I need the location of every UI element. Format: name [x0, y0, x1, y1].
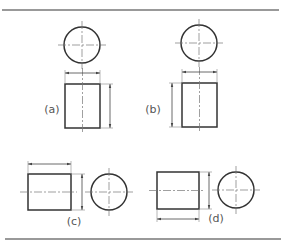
orthographic-views-figure: (a)(b)(c)(d) — [0, 0, 291, 247]
view-label-b: (b) — [145, 103, 161, 116]
view-c: (c) — [20, 161, 133, 228]
view-b: (b) — [145, 19, 223, 133]
view-a: (a) — [44, 21, 113, 134]
view-label-a: (a) — [44, 103, 59, 116]
view-d: (d) — [149, 166, 260, 225]
view-label-c: (c) — [67, 215, 82, 228]
view-label-d: (d) — [208, 212, 224, 225]
